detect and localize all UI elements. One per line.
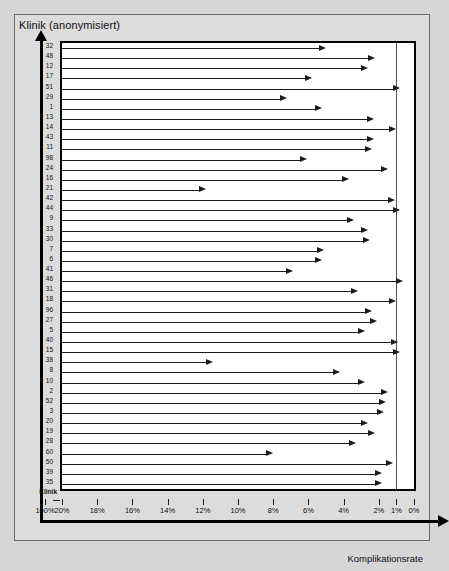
bar-shaft (62, 109, 316, 110)
bar-arrowhead-icon (375, 480, 382, 486)
bar-shaft (62, 160, 301, 161)
bar-shaft (62, 68, 362, 69)
bar-shaft (62, 231, 362, 232)
bar-shaft (62, 261, 316, 262)
y-axis-tick-label: 16 (46, 174, 53, 181)
bar-shaft (62, 89, 394, 90)
x-axis-tick (344, 499, 345, 505)
bar-row (62, 190, 414, 191)
y-axis-label-column: Klinik 324812175129113144311982416214244… (15, 41, 57, 491)
bar-arrowhead-icon (199, 186, 206, 192)
x-axis-tick (203, 499, 204, 505)
bar-row (62, 281, 414, 282)
bar-row (62, 301, 414, 302)
y-axis-tick-label: 28 (46, 437, 53, 444)
x-axis-tick-label: 18% (90, 506, 105, 515)
y-axis-arrowhead-icon (35, 30, 47, 41)
bar-arrowhead-icon (368, 55, 375, 61)
bar-row (62, 413, 414, 414)
bar-row (62, 443, 414, 444)
bar-shaft (62, 48, 320, 49)
bar-arrowhead-icon (381, 166, 388, 172)
bar-arrowhead-icon (333, 369, 340, 375)
x-axis-line (40, 520, 438, 523)
bar-arrowhead-icon (358, 379, 365, 385)
y-axis-tick-label: 2 (49, 387, 53, 394)
bar-arrowhead-icon (206, 359, 213, 365)
y-axis-tick-label: 7 (49, 245, 53, 252)
y-axis-tick-label: 6 (49, 255, 53, 262)
bar-row (62, 464, 414, 465)
bar-arrowhead-icon (317, 247, 324, 253)
x-axis-tick (396, 499, 397, 505)
x-axis-tick (45, 499, 46, 505)
bar-arrowhead-icon (388, 197, 395, 203)
y-axis-tick-label: 8 (49, 366, 53, 373)
bar-shaft (62, 301, 390, 302)
x-axis-tick-label: 20% (54, 506, 69, 515)
bar-shaft (62, 322, 371, 323)
bar-arrowhead-icon (370, 318, 377, 324)
x-axis-tick-label: 6% (303, 506, 314, 515)
y-axis-tick-label: 27 (46, 316, 53, 323)
bar-row (62, 261, 414, 262)
bar-arrowhead-icon (315, 105, 322, 111)
y-axis-tick-label: 18 (46, 295, 53, 302)
x-axis-tick (379, 499, 380, 505)
bar-shaft (62, 423, 362, 424)
x-axis-tick (62, 499, 63, 505)
x-axis-tick-label: 16% (125, 506, 140, 515)
y-axis-tick-label: 32 (46, 42, 53, 49)
bar-row (62, 322, 414, 323)
bar-arrowhead-icon (393, 85, 400, 91)
bar-arrowhead-icon (266, 450, 273, 456)
y-axis-tick-label: 46 (46, 275, 53, 282)
bar-arrowhead-icon (358, 328, 365, 334)
bar-arrowhead-icon (319, 45, 326, 51)
bar-row (62, 220, 414, 221)
bar-row (62, 372, 414, 373)
bar-shaft (62, 251, 318, 252)
bar-row (62, 89, 414, 90)
bar-row (62, 210, 414, 211)
bar-arrowhead-icon (377, 409, 384, 415)
bar-shaft (62, 291, 352, 292)
y-axis-tick-label: 40 (46, 336, 53, 343)
bar-arrowhead-icon (347, 217, 354, 223)
bar-shaft (62, 332, 359, 333)
y-axis-tick-label: 44 (46, 204, 53, 211)
bar-shaft (62, 403, 380, 404)
reference-line-1-percent (396, 43, 397, 489)
bar-row (62, 454, 414, 455)
bar-shaft (62, 241, 364, 242)
y-axis-tick-label: 11 (46, 143, 53, 150)
y-axis-tick-label: 9 (49, 214, 53, 221)
bar-row (62, 342, 414, 343)
bar-row (62, 170, 414, 171)
y-axis-tick-label: 43 (46, 133, 53, 140)
y-axis-tick-label: 21 (46, 184, 53, 191)
bar-row (62, 129, 414, 130)
bar-shaft (62, 129, 390, 130)
y-axis-tick-label: 35 (46, 478, 53, 485)
bar-row (62, 383, 414, 384)
bar-row (62, 99, 414, 100)
bar-row (62, 231, 414, 232)
bar-shaft (62, 443, 350, 444)
bar-shaft (62, 393, 382, 394)
x-axis-tick-label: 10% (230, 506, 245, 515)
bar-arrowhead-icon (349, 440, 356, 446)
bar-row (62, 332, 414, 333)
bar-shaft (62, 119, 368, 120)
bar-shaft (62, 464, 387, 465)
y-axis-tick-label: 30 (46, 235, 53, 242)
bar-arrowhead-icon (315, 257, 322, 263)
y-axis-tick-label: 13 (46, 113, 53, 120)
x-axis-tick-label: 2% (373, 506, 384, 515)
y-axis-tick-label: 96 (46, 306, 53, 313)
bar-shaft (62, 352, 394, 353)
bar-shaft (62, 170, 382, 171)
bar-arrowhead-icon (351, 288, 358, 294)
y-axis-tick-label: 51 (46, 83, 53, 90)
bar-row (62, 149, 414, 150)
